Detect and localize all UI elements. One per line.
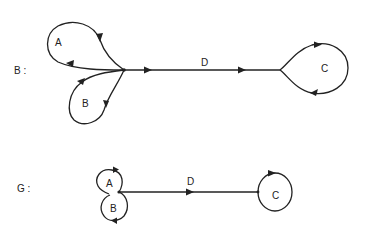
graph-b-loop-c-arrow-bottom	[310, 89, 318, 96]
graph-g-label: G :	[17, 183, 30, 194]
graph-b-edge-d-arrow-1	[144, 67, 152, 74]
graph-b-loop-b	[69, 70, 124, 124]
graph-b: B : A B D C	[14, 22, 348, 123]
graph-b-edge-d-arrow-2	[238, 67, 246, 74]
graph-b-loop-b-arrow-down	[103, 100, 109, 108]
graph-g-loop-b-label: B	[110, 203, 117, 214]
graph-g-edge-d-arrow	[186, 189, 194, 196]
graph-g-loop-c-label: C	[272, 190, 279, 201]
graph-g-edge-d-label: D	[187, 176, 194, 187]
graph-b-loop-a-label: A	[55, 37, 62, 48]
graph-b-loop-c-label: C	[321, 63, 328, 74]
graph-g-loop-a-label: A	[106, 178, 113, 189]
graph-b-loop-a-arrow-down	[96, 33, 103, 42]
graph-g-loop-c-arrow	[268, 170, 276, 177]
graph-diagram: B : A B D C G : A B	[0, 0, 367, 235]
graph-b-loop-c-arrow-top	[314, 42, 322, 49]
graph-g-loop-b-arrow	[111, 218, 117, 225]
graph-g: G : A B D C	[17, 167, 292, 225]
graph-b-edge-d-label: D	[201, 57, 208, 68]
graph-b-loop-b-label: B	[82, 98, 89, 109]
graph-g-node-c	[257, 191, 260, 194]
graph-b-loop-b-arrow-up	[77, 78, 85, 85]
graph-b-loop-c	[280, 44, 348, 94]
graph-b-label: B :	[14, 65, 26, 76]
